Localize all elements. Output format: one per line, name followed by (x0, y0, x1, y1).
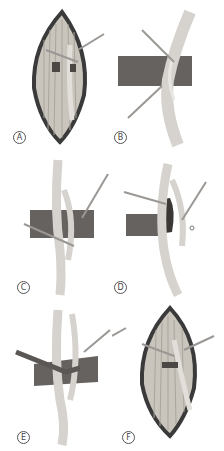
panel-d: D (112, 150, 224, 300)
panel-label: E (17, 431, 30, 444)
panel-label: C (17, 281, 30, 294)
panel-label: A (13, 131, 26, 144)
band-cut-illustration (0, 300, 112, 451)
nerve-split-illustration (0, 150, 112, 300)
panel-label: D (114, 281, 127, 294)
panel-e: E (0, 300, 112, 450)
incision-illustration (0, 0, 112, 150)
nerve-band-illustration (112, 0, 224, 150)
panel-label: F (122, 431, 135, 444)
band-retracted-illustration (112, 150, 224, 300)
panel-label: B (114, 131, 127, 144)
panel-c: C (0, 150, 112, 300)
panel-f: F (112, 300, 224, 450)
incision-repair-illustration (112, 300, 224, 451)
panel-b: B (112, 0, 224, 150)
panel-a: A (0, 0, 112, 150)
